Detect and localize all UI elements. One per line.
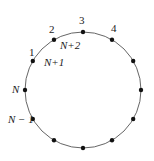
ring-diagram: 3 4 2 1 N N − 1 N+2 N+1 (0, 0, 154, 161)
label-2: 2 (49, 23, 55, 35)
ring-node (52, 138, 56, 142)
ring-node (81, 146, 85, 150)
ring-node (52, 38, 56, 42)
ring-node (81, 30, 85, 34)
ring-node (31, 59, 35, 63)
label-n: N (11, 83, 20, 95)
ring-node (110, 138, 114, 142)
label-n-plus-2: N+2 (59, 39, 81, 51)
ring-node (139, 88, 143, 92)
label-n-plus-1: N+1 (43, 56, 64, 68)
ring-circle (25, 32, 141, 148)
ring-node (131, 59, 135, 63)
label-1: 1 (29, 46, 35, 58)
ring-node (110, 38, 114, 42)
label-n-minus-1: N − 1 (7, 113, 34, 125)
ring-node (23, 88, 27, 92)
label-3: 3 (79, 14, 85, 26)
label-4: 4 (111, 22, 117, 34)
ring-node (131, 117, 135, 121)
